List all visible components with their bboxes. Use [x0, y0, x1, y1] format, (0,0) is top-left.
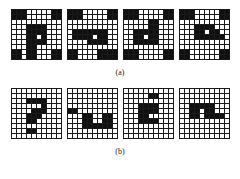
grid-cell — [210, 124, 214, 128]
grid-cell — [195, 94, 199, 98]
grid-cell — [27, 129, 31, 133]
grid-cell — [98, 50, 102, 54]
grid-cell — [205, 30, 209, 34]
grid-cell — [37, 40, 41, 44]
grid-cell — [149, 109, 153, 113]
grid-cell — [149, 10, 153, 14]
grid-cell — [88, 15, 92, 19]
grid-cell — [113, 20, 117, 24]
grid-cell — [42, 94, 46, 98]
grid-cell — [108, 114, 112, 118]
grid-cell — [164, 10, 168, 14]
grid-cell — [73, 25, 77, 29]
grid-cell — [215, 119, 219, 123]
grid-cell — [180, 30, 184, 34]
grid-cell — [215, 55, 219, 59]
grid-cell — [180, 99, 184, 103]
grid-cell — [103, 94, 107, 98]
grid-cell — [42, 10, 46, 14]
grid-cell — [103, 35, 107, 39]
grid-cell — [225, 35, 229, 39]
grid-cell — [12, 35, 16, 39]
grid-cell — [103, 25, 107, 29]
grid-cell — [200, 134, 204, 138]
grid-cell — [164, 129, 168, 133]
grid-cell — [124, 109, 128, 113]
grid-cell — [103, 129, 107, 133]
grid-cell — [52, 50, 56, 54]
grid-cell — [93, 35, 97, 39]
grid-cell — [113, 124, 117, 128]
grid-cell — [78, 15, 82, 19]
grid-cell — [32, 40, 36, 44]
grid-cell — [149, 129, 153, 133]
grid-cell — [113, 40, 117, 44]
grid-cell — [210, 50, 214, 54]
grid-cell — [154, 109, 158, 113]
grid-cell — [73, 50, 77, 54]
grid-cell — [113, 10, 117, 14]
grid-cell — [93, 50, 97, 54]
grid-cell — [159, 50, 163, 54]
grid-cell — [210, 10, 214, 14]
grid-cell — [169, 40, 173, 44]
grid-cell — [185, 89, 189, 93]
grid-cell — [129, 10, 133, 14]
grid-cell — [225, 25, 229, 29]
grid-cell — [169, 45, 173, 49]
grid-cell — [113, 55, 117, 59]
grid-cell — [52, 30, 56, 34]
grid-cell — [139, 45, 143, 49]
grid-cell — [32, 104, 36, 108]
grid-cell — [190, 129, 194, 133]
grid-cell — [68, 89, 72, 93]
grid-cell — [144, 104, 148, 108]
grid-cell — [154, 99, 158, 103]
pattern-grid-a-1 — [11, 9, 62, 60]
grid-cell — [124, 114, 128, 118]
grid-cell — [27, 114, 31, 118]
grid-cell — [98, 114, 102, 118]
grid-cell — [180, 129, 184, 133]
grid-cell — [52, 129, 56, 133]
grid-row-b — [11, 88, 230, 139]
grid-cell — [134, 15, 138, 19]
grid-cell — [73, 114, 77, 118]
grid-cell — [108, 20, 112, 24]
grid-cell — [164, 89, 168, 93]
grid-cell — [78, 10, 82, 14]
grid-cell — [68, 50, 72, 54]
grid-cell — [42, 45, 46, 49]
grid-cell — [103, 45, 107, 49]
grid-cell — [37, 99, 41, 103]
grid-cell — [73, 35, 77, 39]
grid-cell — [190, 124, 194, 128]
grid-cell — [190, 35, 194, 39]
grid-cell — [220, 40, 224, 44]
grid-cell — [195, 20, 199, 24]
grid-cell — [68, 94, 72, 98]
grid-cell — [22, 25, 26, 29]
grid-cell — [27, 35, 31, 39]
grid-cell — [180, 15, 184, 19]
grid-cell — [200, 40, 204, 44]
grid-cell — [200, 104, 204, 108]
grid-cell — [73, 99, 77, 103]
grid-cell — [73, 10, 77, 14]
grid-cell — [57, 15, 61, 19]
grid-cell — [98, 45, 102, 49]
pattern-grid-a-4 — [179, 9, 230, 60]
grid-cell — [78, 30, 82, 34]
grid-cell — [73, 109, 77, 113]
grid-cell — [180, 134, 184, 138]
grid-cell — [88, 45, 92, 49]
grid-cell — [195, 134, 199, 138]
grid-cell — [27, 10, 31, 14]
grid-cell — [195, 124, 199, 128]
grid-cell — [169, 109, 173, 113]
grid-cell — [42, 124, 46, 128]
grid-cell — [47, 114, 51, 118]
grid-cell — [12, 109, 16, 113]
grid-cell — [83, 30, 87, 34]
grid-cell — [103, 40, 107, 44]
